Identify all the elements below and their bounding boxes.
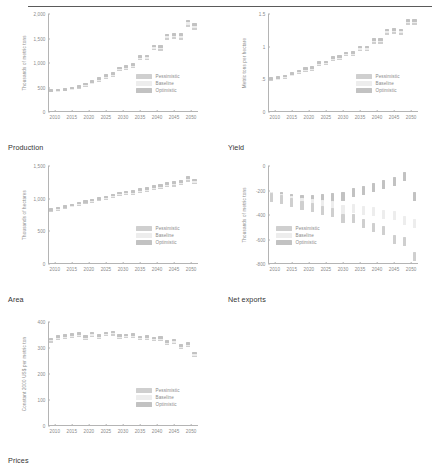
y-axis-title: Thousands of hectares <box>22 190 27 240</box>
data-point-prices <box>179 344 183 347</box>
data-point-yield <box>337 55 341 58</box>
legend-item-pessimistic[interactable]: Pessimistic <box>136 388 180 393</box>
data-point-prices <box>70 333 74 336</box>
legend-item-optimistic[interactable]: Optimistic <box>136 88 180 93</box>
data-point-net_exports <box>403 172 406 181</box>
legend-label-optimistic: Optimistic <box>376 88 397 93</box>
x-tick-label: 2035 <box>135 426 146 434</box>
legend-label-optimistic: Optimistic <box>156 88 177 93</box>
x-tick-label: 2025 <box>321 112 332 120</box>
data-point-net_exports <box>413 192 416 201</box>
legend-item-pessimistic[interactable]: Pessimistic <box>136 74 180 79</box>
legend-item-baseline[interactable]: Baseline <box>356 81 400 86</box>
y-tick-label: 0 <box>43 262 48 267</box>
y-axis-title: Metric tons per hectare <box>242 38 247 88</box>
data-point-net_exports <box>270 193 273 202</box>
legend-item-baseline[interactable]: Baseline <box>136 81 180 86</box>
data-point-production <box>131 63 135 66</box>
data-point-production <box>158 45 162 48</box>
header-divider <box>28 6 432 7</box>
legend-item-optimistic[interactable]: Optimistic <box>136 240 180 245</box>
data-point-production <box>186 24 190 27</box>
data-point-yield <box>331 56 335 59</box>
data-point-yield <box>378 38 382 41</box>
data-point-net_exports <box>341 214 344 223</box>
legend-swatch-baseline <box>136 233 152 238</box>
legend-item-optimistic[interactable]: Optimistic <box>276 240 320 245</box>
x-tick-label: 2035 <box>135 112 146 120</box>
x-tick-label: 2030 <box>118 426 129 434</box>
data-point-area <box>111 194 115 197</box>
data-point-production <box>104 74 108 77</box>
data-point-net_exports <box>413 219 416 228</box>
legend-item-optimistic[interactable]: Optimistic <box>356 88 400 93</box>
header-cropped-text <box>100 0 350 5</box>
data-point-prices <box>165 340 169 343</box>
legend-item-baseline[interactable]: Baseline <box>276 233 320 238</box>
y-axis-line <box>268 14 269 112</box>
x-tick-label: 2015 <box>287 264 298 272</box>
x-tick-label: 2025 <box>321 264 332 272</box>
data-point-net_exports <box>300 201 303 210</box>
x-tick-label: 2025 <box>101 264 112 272</box>
legend-label-pessimistic: Pessimistic <box>296 226 320 231</box>
x-tick-label: 2010 <box>50 112 61 120</box>
data-point-production <box>77 85 81 88</box>
chart-caption-yield: Yield <box>228 143 244 152</box>
chart-panel-yield: 0.511.5201020152020202520302035204020452… <box>228 14 418 126</box>
legend-item-pessimistic[interactable]: Pessimistic <box>136 226 180 231</box>
data-point-prices <box>158 336 162 339</box>
x-tick-label: 2010 <box>270 112 281 120</box>
chart-caption-area: Area <box>8 295 24 304</box>
data-point-net_exports <box>290 198 293 207</box>
y-tick-label: -800 <box>256 262 268 267</box>
data-point-area <box>145 187 149 190</box>
legend-label-baseline: Baseline <box>156 233 174 238</box>
data-point-production <box>124 65 128 68</box>
data-point-net_exports <box>341 192 344 201</box>
legend-label-baseline: Baseline <box>376 81 394 86</box>
data-point-net_exports <box>280 195 283 204</box>
y-tick-label: 2,000 <box>34 12 49 17</box>
data-point-area <box>158 184 162 187</box>
data-point-net_exports <box>341 205 344 214</box>
chart-legend-net_exports: PessimisticBaselineOptimistic <box>276 226 320 248</box>
x-tick-label: 2035 <box>355 112 366 120</box>
data-point-yield <box>344 52 348 55</box>
data-point-yield <box>276 76 280 79</box>
x-tick-label: 2050 <box>406 264 417 272</box>
legend-item-pessimistic[interactable]: Pessimistic <box>356 74 400 79</box>
legend-label-pessimistic: Pessimistic <box>376 74 400 79</box>
data-point-net_exports <box>382 180 385 189</box>
x-tick-label: 2045 <box>169 426 180 434</box>
data-point-prices <box>83 335 87 338</box>
x-tick-label: 2030 <box>338 112 349 120</box>
data-point-net_exports <box>352 188 355 197</box>
chart-panel-prices: 0100200300400201020152020202520302035204… <box>8 322 198 440</box>
legend-item-optimistic[interactable]: Optimistic <box>136 402 180 407</box>
x-tick-label: 2015 <box>287 112 298 120</box>
data-point-net_exports <box>362 206 365 215</box>
data-point-net_exports <box>321 206 324 215</box>
data-point-prices <box>77 332 81 335</box>
data-point-net_exports <box>413 252 416 261</box>
data-point-net_exports <box>311 203 314 212</box>
legend-swatch-pessimistic <box>136 74 152 79</box>
legend-item-baseline[interactable]: Baseline <box>136 233 180 238</box>
y-tick-label: 100 <box>38 398 48 403</box>
legend-item-pessimistic[interactable]: Pessimistic <box>276 226 320 231</box>
legend-item-baseline[interactable]: Baseline <box>136 395 180 400</box>
data-point-yield <box>297 70 301 73</box>
legend-label-pessimistic: Pessimistic <box>156 226 180 231</box>
data-point-production <box>192 23 196 26</box>
x-tick-label: 2015 <box>67 112 78 120</box>
data-point-production <box>172 33 176 36</box>
y-tick-label: 0 <box>263 110 268 115</box>
y-tick-label: 0 <box>43 110 48 115</box>
data-point-area <box>63 205 67 208</box>
data-point-net_exports <box>352 204 355 213</box>
x-tick-label: 2035 <box>355 264 366 272</box>
data-point-net_exports <box>403 237 406 246</box>
data-point-area <box>83 200 87 203</box>
y-axis-title: Thousands of metric tons <box>242 187 247 242</box>
